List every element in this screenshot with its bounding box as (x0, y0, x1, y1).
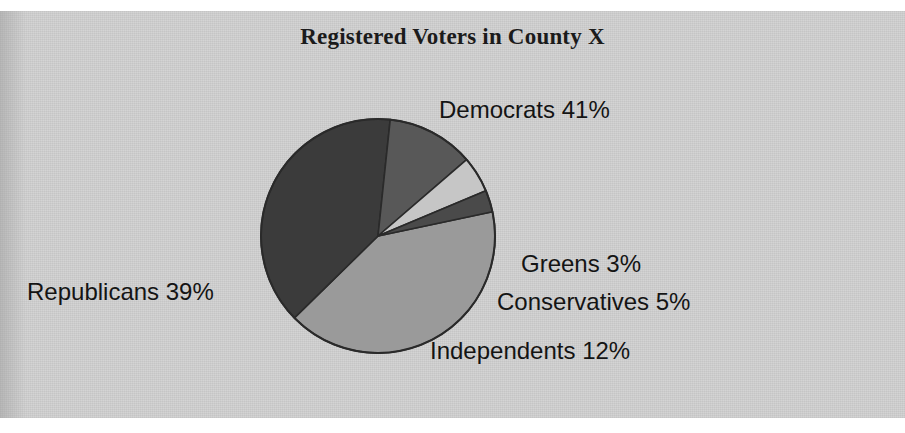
pie-label-conservatives: Conservatives 5% (497, 288, 690, 316)
pie-slices (261, 119, 495, 353)
pie-label-republicans: Republicans 39% (27, 278, 214, 306)
pie-label-democrats: Democrats 41% (439, 96, 610, 124)
page-title: Registered Voters in County X (0, 24, 905, 50)
pie-label-independents: Independents 12% (430, 337, 630, 365)
pie-chart-figure: Registered Voters in County X Democrats … (0, 0, 905, 433)
pie-svg (255, 113, 501, 359)
pie-label-greens: Greens 3% (521, 250, 641, 278)
pie-chart (255, 113, 501, 359)
